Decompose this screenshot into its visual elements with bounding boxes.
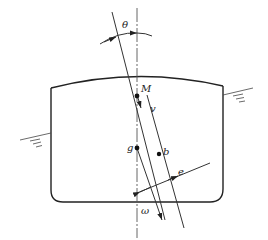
label-M: M [140,83,152,94]
waterline-right [223,88,253,102]
label-theta: θ [122,19,128,30]
waterline-left [20,133,51,147]
buoyancy-line [147,95,184,228]
ship-stability-diagram: θ M v g b e ω [0,0,268,240]
label-b: b [163,146,169,157]
point-g [135,146,140,151]
v-arrow [138,98,141,108]
label-v: v [150,103,156,114]
tilted-axis-line [112,12,165,220]
theta-arc [100,33,152,44]
point-M [135,94,140,99]
point-b [157,152,161,156]
label-omega: ω [141,205,149,216]
label-g: g [127,142,133,153]
label-e: e [178,166,184,177]
